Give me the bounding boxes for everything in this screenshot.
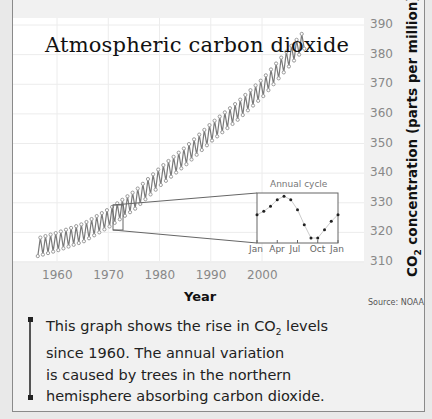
- x-tick-label: 1970: [93, 268, 124, 282]
- y-axis-label: CO2 concentration (parts per million): [404, 0, 423, 277]
- y-tick-label: 310: [370, 254, 393, 268]
- y-tick-label: 370: [370, 76, 393, 90]
- y-tick-label: 330: [370, 195, 393, 209]
- x-axis-label: Year: [184, 289, 216, 304]
- y-tick-label: 360: [370, 106, 393, 120]
- y-tick-label: 380: [370, 47, 393, 61]
- caption-bracket: [29, 319, 31, 398]
- x-tick-label: 1960: [42, 268, 73, 282]
- y-tick-label: 340: [370, 165, 393, 179]
- inset-tick-label: Jan: [249, 244, 263, 254]
- x-tick-label: 2000: [247, 268, 278, 282]
- inset-tick-label: Oct: [310, 244, 326, 254]
- inset-zoom-lines: [113, 193, 257, 243]
- x-tick-label: 1980: [145, 268, 176, 282]
- annual-cycle-inset: [256, 193, 340, 243]
- x-tick-label: 1990: [196, 268, 227, 282]
- inset-tick-label: Jan: [330, 244, 344, 254]
- inset-title: Annual cycle: [270, 179, 327, 189]
- y-tick-label: 390: [370, 17, 393, 31]
- inset-tick-label: Jul: [290, 244, 301, 254]
- chart-title: Atmospheric carbon dioxide: [45, 33, 349, 57]
- inset-tick-label: Apr: [269, 244, 285, 254]
- caption: This graph shows the rise in CO2 levels …: [46, 316, 328, 408]
- y-tick-label: 350: [370, 136, 393, 150]
- y-tick-label: 320: [370, 224, 393, 238]
- source-note: Source: NOAA: [368, 298, 424, 307]
